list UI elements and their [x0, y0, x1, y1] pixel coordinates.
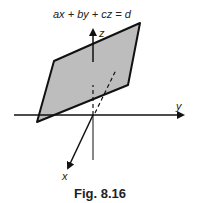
- x-axis-label: x: [61, 170, 68, 182]
- x-axis: [68, 115, 93, 168]
- plane-diagram: ax + by + cz = d z y x Fig. 8.16: [0, 0, 197, 203]
- z-axis-label: z: [98, 27, 105, 39]
- figure-caption: Fig. 8.16: [74, 186, 126, 201]
- plane-equation: ax + by + cz = d: [53, 8, 132, 20]
- plane: [37, 23, 140, 122]
- y-axis-label: y: [175, 100, 183, 112]
